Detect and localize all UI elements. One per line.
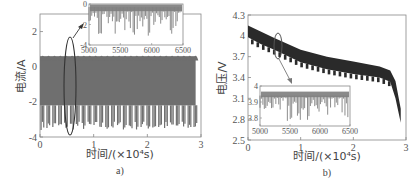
chart-b-arrow bbox=[279, 59, 290, 80]
chart-a: -4-202 0123 5000550060006500-4-20 电流/A 时… bbox=[14, 0, 204, 177]
chart-b-y-label: 电压/V bbox=[216, 61, 229, 95]
svg-text:3.8: 3.8 bbox=[248, 114, 258, 123]
x-tick-label: 0 bbox=[38, 139, 43, 150]
svg-text:6000: 6000 bbox=[312, 127, 328, 136]
chart-a-x-label: 时间/(×10⁴s) bbox=[86, 148, 154, 161]
figure: -4-202 0123 5000550060006500-4-20 电流/A 时… bbox=[0, 0, 419, 186]
chart-a-y-label: 电流/A bbox=[14, 59, 28, 93]
chart-b-inset: 50005500600065003.83.94 bbox=[248, 82, 358, 136]
x-tick-label: 3 bbox=[404, 142, 409, 153]
svg-text:-2: -2 bbox=[80, 21, 87, 30]
y-tick-label: -4 bbox=[29, 132, 37, 143]
svg-text:6500: 6500 bbox=[342, 127, 358, 136]
chart-a-caption: a) bbox=[116, 165, 124, 177]
svg-text:6000: 6000 bbox=[144, 46, 160, 55]
x-tick-label: 3 bbox=[199, 139, 204, 150]
chart-b-caption: b) bbox=[323, 167, 331, 179]
y-tick-label: 2 bbox=[32, 26, 37, 37]
svg-text:5000: 5000 bbox=[252, 127, 268, 136]
chart-a-inset: 5000550060006500-4-20 bbox=[80, 0, 191, 55]
y-tick-label: 3.4 bbox=[233, 72, 246, 83]
svg-text:5500: 5500 bbox=[112, 46, 128, 55]
svg-text:6500: 6500 bbox=[175, 46, 191, 55]
svg-text:0: 0 bbox=[83, 0, 87, 9]
y-tick-label: 4 bbox=[240, 30, 245, 41]
y-tick-label: 3.1 bbox=[233, 93, 246, 104]
y-tick-label: -2 bbox=[29, 96, 37, 107]
y-tick-label: 2.8 bbox=[233, 114, 246, 125]
chart-b-x-label: 时间/(×10⁴s) bbox=[293, 150, 361, 163]
chart-b-arrowhead-icon bbox=[287, 78, 292, 84]
chart-b: 2.52.83.13.43.744.3 0123 500055006000650… bbox=[216, 10, 409, 180]
y-tick-label: 0 bbox=[32, 61, 37, 72]
y-tick-label: 2.5 bbox=[233, 135, 246, 146]
svg-text:5500: 5500 bbox=[282, 127, 298, 136]
y-tick-label: 3.7 bbox=[233, 51, 246, 62]
y-tick-label: 4.3 bbox=[233, 10, 246, 21]
x-tick-label: 0 bbox=[246, 142, 251, 153]
svg-text:4: 4 bbox=[254, 82, 258, 91]
svg-text:3.9: 3.9 bbox=[248, 98, 258, 107]
svg-text:-4: -4 bbox=[80, 41, 87, 50]
